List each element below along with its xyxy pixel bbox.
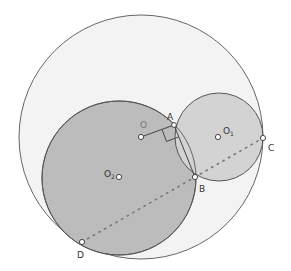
- label-d: D: [77, 250, 84, 260]
- point-o: [138, 134, 143, 139]
- point-o1: [215, 134, 220, 139]
- geometry-figure: A B C D O O1 O2: [0, 0, 291, 271]
- point-o2: [116, 174, 121, 179]
- label-a: A: [167, 112, 174, 122]
- label-b: B: [199, 184, 205, 194]
- label-c: C: [268, 143, 274, 153]
- point-b: [192, 174, 197, 179]
- point-a: [172, 123, 177, 128]
- label-o: O: [140, 120, 147, 130]
- point-c: [260, 135, 265, 140]
- point-d: [79, 239, 84, 244]
